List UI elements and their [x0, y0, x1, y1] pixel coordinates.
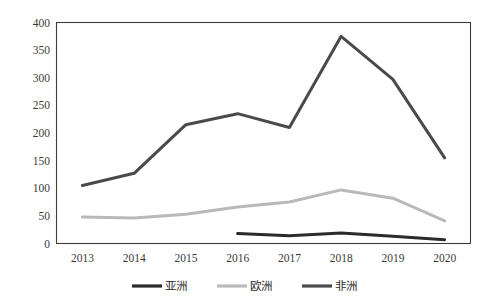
- y-tick-label: 100: [33, 182, 51, 194]
- y-tick-label: 0: [44, 238, 50, 250]
- x-tick-label: 2019: [381, 252, 404, 264]
- x-tick-label: 2017: [278, 252, 301, 264]
- legend-label-1[interactable]: 欧洲: [250, 280, 272, 292]
- legend-label-2[interactable]: 非洲: [335, 280, 357, 292]
- y-tick-label: 200: [33, 127, 51, 139]
- chart-canvas: 050100150200250300350400 201320142015201…: [0, 0, 497, 304]
- x-tick-label: 2014: [123, 252, 146, 264]
- legend-label-0[interactable]: 亚洲: [165, 280, 187, 292]
- line-chart: 050100150200250300350400 201320142015201…: [0, 0, 497, 304]
- x-tick-label: 2013: [71, 252, 94, 264]
- y-tick-label: 300: [33, 72, 51, 84]
- y-tick-label: 350: [33, 44, 51, 56]
- x-tick-label: 2018: [330, 252, 353, 264]
- x-tick-label: 2016: [226, 252, 249, 264]
- y-tick-label: 250: [33, 99, 51, 111]
- x-tick-label: 2015: [174, 252, 197, 264]
- x-tick-label: 2020: [433, 252, 456, 264]
- y-tick-label: 50: [39, 210, 51, 222]
- y-tick-label: 400: [33, 17, 51, 29]
- y-tick-label: 150: [33, 155, 51, 167]
